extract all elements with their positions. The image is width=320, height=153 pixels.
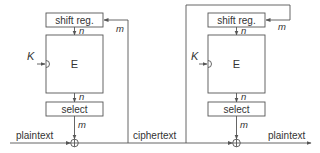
shift-register-label: shift reg. — [55, 15, 93, 26]
n-label-bottom: n — [79, 91, 84, 102]
m-label-select-decrypt: m — [240, 119, 248, 130]
encryption-section: shift reg. n E K n select m plaintext — [10, 13, 186, 147]
m-label-feedback: m — [116, 23, 124, 34]
cipher-label-e-decrypt: E — [233, 58, 240, 70]
feedback-line-encrypt — [104, 20, 128, 143]
n-label-bottom-decrypt: n — [241, 91, 246, 102]
cfb-diagram: shift reg. n E K n select m plaintext — [0, 0, 320, 153]
xor-icon-decrypt — [233, 139, 241, 147]
plaintext-output-label: plaintext — [268, 130, 305, 141]
key-label-decrypt: K — [191, 50, 199, 62]
n-label-top-decrypt: n — [241, 25, 246, 36]
ciphertext-label: ciphertext — [133, 130, 177, 141]
m-label-feedback-decrypt: m — [278, 21, 286, 32]
decryption-section: m shift reg. n E K n select m plaintext — [186, 5, 311, 147]
plaintext-input-label: plaintext — [16, 130, 53, 141]
m-label-select: m — [78, 119, 86, 130]
select-label-decrypt: select — [223, 104, 249, 115]
key-label: K — [27, 50, 35, 62]
xor-icon — [71, 139, 79, 147]
select-label: select — [61, 104, 87, 115]
shift-register-label-decrypt: shift reg. — [217, 15, 255, 26]
n-label-top: n — [79, 25, 84, 36]
cipher-label-e: E — [71, 58, 78, 70]
